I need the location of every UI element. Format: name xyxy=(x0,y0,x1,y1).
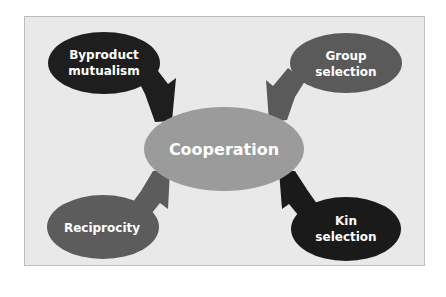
node-kin-selection: Kin selection xyxy=(291,197,401,261)
node-byproduct-mutualism: Byproduct mutualism xyxy=(48,32,160,94)
group-ellipse xyxy=(290,33,402,93)
node-reciprocity: Reciprocity xyxy=(47,195,159,259)
byproduct-ellipse xyxy=(48,32,160,94)
group-label-line1: Group xyxy=(325,49,367,63)
byproduct-label-line2: mutualism xyxy=(68,64,139,78)
kin-ellipse xyxy=(291,197,401,261)
kin-label-line1: Kin xyxy=(335,214,357,228)
byproduct-label-line1: Byproduct xyxy=(69,48,139,62)
node-group-selection: Group selection xyxy=(290,33,402,93)
cooperation-diagram: Cooperation Byproduct mutualism Group se… xyxy=(0,0,446,297)
group-label-line2: selection xyxy=(315,65,376,79)
cooperation-label: Cooperation xyxy=(169,140,279,159)
reciprocity-label: Reciprocity xyxy=(64,221,140,235)
kin-label-line2: selection xyxy=(315,230,376,244)
node-cooperation: Cooperation xyxy=(144,107,304,191)
